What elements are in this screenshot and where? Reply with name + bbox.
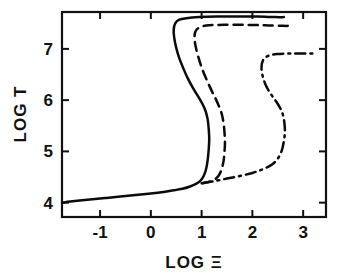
y-axis-tick-labels: 4567 (44, 40, 54, 213)
y-tick-label: 5 (44, 142, 53, 161)
y-tick-label: 7 (44, 40, 53, 59)
y-tick-label: 4 (44, 194, 54, 213)
data-curves (62, 17, 316, 203)
dash-dot-curve (203, 53, 316, 183)
y-tick-label: 6 (44, 91, 53, 110)
plot-svg: -10123 4567 LOG Ξ LOG T (0, 0, 346, 278)
x-tick-label: 2 (248, 223, 257, 242)
y-axis-label: LOG T (11, 86, 30, 143)
x-axis-label: LOG Ξ (165, 253, 223, 272)
x-axis-tick-labels: -10123 (93, 223, 308, 242)
x-tick-label: 1 (197, 223, 206, 242)
x-tick-label: -1 (93, 223, 108, 242)
x-tick-label: 0 (146, 223, 155, 242)
x-tick-label: 3 (298, 223, 307, 242)
solid-curve (62, 17, 284, 203)
figure-container: -10123 4567 LOG Ξ LOG T (0, 0, 346, 278)
